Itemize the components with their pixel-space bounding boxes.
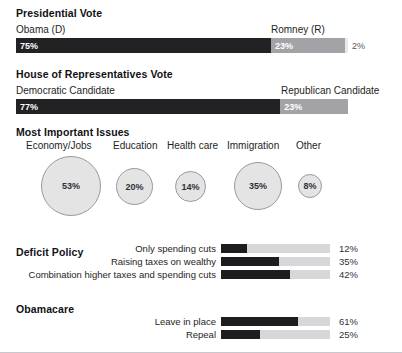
obamacare-value-repeal: 25% — [339, 329, 358, 340]
house-vote-bar: 77% 23% — [16, 99, 348, 114]
issue-value-economy-jobs: 53% — [62, 181, 80, 191]
issue-label-economy-jobs: Economy/Jobs — [26, 140, 92, 151]
obamacare-row-leave-in-place: Leave in place 61% — [221, 316, 330, 327]
issue-label-health-care: Health care — [167, 140, 218, 151]
presidential-obama-label: Obama (D) — [16, 24, 65, 35]
presidential-segment-obama: 75% — [16, 38, 271, 53]
issue-value-education: 20% — [125, 182, 143, 192]
deficit-row-only-spending-cuts: Only spending cuts 12% — [221, 243, 330, 254]
section-title-house-vote: House of Representatives Vote — [16, 68, 173, 80]
issue-value-immigration: 35% — [249, 181, 267, 191]
presidential-other-value: 2% — [352, 41, 365, 51]
section-title-deficit-policy: Deficit Policy — [16, 246, 83, 258]
obamacare-value-leave-in-place: 61% — [339, 316, 358, 327]
deficit-label-raising-taxes-on-wealthy: Raising taxes on wealthy — [111, 256, 216, 267]
deficit-value-raising-taxes-on-wealthy: 35% — [339, 256, 358, 267]
deficit-track-combination — [221, 270, 330, 279]
deficit-fill-only-spending-cuts — [221, 244, 247, 253]
deficit-fill-combination — [221, 270, 290, 279]
deficit-value-combination: 42% — [339, 269, 358, 280]
poll-results-infographic: Presidential Vote Obama (D) Romney (R) 7… — [0, 0, 402, 353]
issue-bubble-education: 20% — [116, 168, 153, 205]
presidential-romney-value: 23% — [271, 41, 293, 51]
obamacare-track-repeal — [221, 330, 330, 339]
deficit-fill-raising-taxes-on-wealthy — [221, 257, 279, 266]
house-republican-value: 23% — [280, 102, 302, 112]
presidential-segment-other — [345, 38, 348, 53]
issue-value-health-care: 14% — [181, 182, 199, 192]
issue-label-education: Education — [113, 140, 157, 151]
deficit-track-only-spending-cuts — [221, 244, 330, 253]
obamacare-row-repeal: Repeal 25% — [221, 329, 330, 340]
deficit-row-raising-taxes-on-wealthy: Raising taxes on wealthy 35% — [221, 256, 330, 267]
deficit-row-combination: Combination higher taxes and spending cu… — [221, 269, 330, 280]
issue-bubble-economy-jobs: 53% — [41, 156, 101, 216]
obamacare-track-leave-in-place — [221, 317, 330, 326]
obamacare-label-leave-in-place: Leave in place — [155, 316, 216, 327]
section-title-most-important-issues: Most Important Issues — [16, 126, 130, 138]
issue-bubble-other: 8% — [298, 174, 322, 198]
section-title-presidential-vote: Presidential Vote — [16, 7, 102, 19]
presidential-obama-value: 75% — [16, 41, 38, 51]
obamacare-fill-leave-in-place — [221, 317, 298, 326]
house-republican-label: Republican Candidate — [281, 85, 379, 96]
obamacare-fill-repeal — [221, 330, 260, 339]
house-segment-republican: 23% — [280, 99, 348, 114]
presidential-segment-romney: 23% — [271, 38, 345, 53]
deficit-track-raising-taxes-on-wealthy — [221, 257, 330, 266]
issue-label-other: Other — [296, 140, 321, 151]
deficit-value-only-spending-cuts: 12% — [339, 243, 358, 254]
issue-bubble-immigration: 35% — [234, 162, 282, 210]
house-democratic-value: 77% — [16, 102, 38, 112]
deficit-label-only-spending-cuts: Only spending cuts — [135, 243, 216, 254]
house-segment-democratic: 77% — [16, 99, 280, 114]
issue-value-other: 8% — [303, 181, 316, 191]
presidential-romney-label: Romney (R) — [271, 24, 325, 35]
issue-label-immigration: Immigration — [227, 140, 279, 151]
house-democratic-label: Democratic Candidate — [16, 85, 115, 96]
presidential-vote-bar: 75% 23% — [16, 38, 348, 53]
deficit-label-combination: Combination higher taxes and spending cu… — [29, 269, 216, 280]
issue-bubble-health-care: 14% — [175, 171, 206, 202]
obamacare-label-repeal: Repeal — [186, 329, 216, 340]
section-title-obamacare: Obamacare — [16, 303, 74, 315]
